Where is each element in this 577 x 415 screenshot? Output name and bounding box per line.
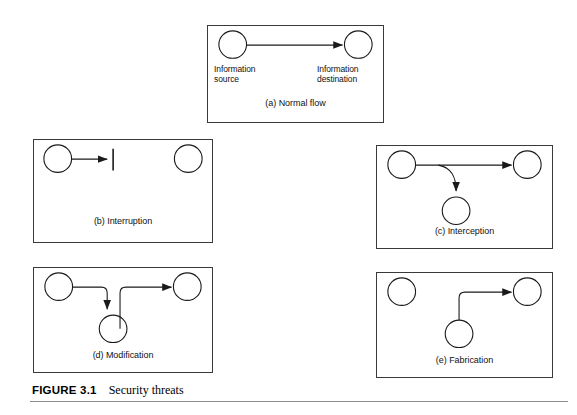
source-node <box>388 151 416 178</box>
destination-label: Information destination <box>317 65 358 84</box>
interception-branch-arrow <box>438 165 456 191</box>
interruption-diagram <box>34 140 212 242</box>
attacker-to-destination-arrow <box>120 287 171 329</box>
panel-caption-b: (b) Interruption <box>34 216 212 226</box>
attacker-node <box>442 197 470 224</box>
panel-caption-d: (d) Modification <box>34 350 212 360</box>
destination-node <box>173 273 201 300</box>
panel-interception: (c) Interception <box>376 145 553 249</box>
destination-node <box>174 145 202 172</box>
destination-node <box>513 151 541 178</box>
destination-node <box>513 278 541 305</box>
figure-3-1: Information source Information destinati… <box>0 0 577 415</box>
panel-caption-c: (c) Interception <box>377 226 552 236</box>
source-node <box>219 31 247 58</box>
attacker-to-destination-arrow <box>459 292 511 320</box>
destination-node <box>344 31 372 58</box>
source-node <box>388 278 416 305</box>
source-node <box>44 145 72 172</box>
caption-divider <box>30 401 568 402</box>
attacker-node <box>445 320 473 347</box>
panel-normal-flow: Information source Information destinati… <box>207 25 384 123</box>
panel-modification: (d) Modification <box>33 267 213 373</box>
figure-title: Security threats <box>109 383 184 398</box>
panel-caption-a: (a) Normal flow <box>208 98 383 108</box>
figure-number: FIGURE 3.1 <box>32 384 97 396</box>
source-node <box>45 273 73 300</box>
panel-fabrication: (e) Fabrication <box>376 272 553 378</box>
attacker-node <box>99 315 127 342</box>
source-label: Information source <box>214 65 255 84</box>
source-to-attacker-arrow <box>73 287 108 309</box>
figure-caption: FIGURE 3.1 Security threats <box>32 383 184 398</box>
panel-caption-e: (e) Fabrication <box>377 355 552 365</box>
panel-interruption: (b) Interruption <box>33 139 213 243</box>
